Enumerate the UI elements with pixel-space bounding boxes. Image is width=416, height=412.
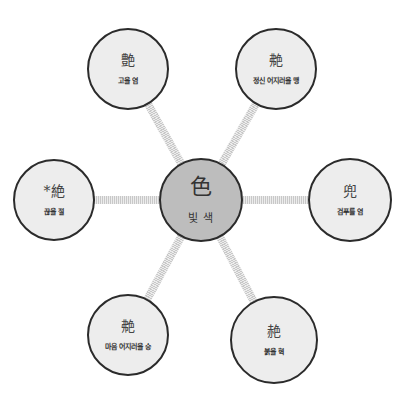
connector-right bbox=[241, 196, 310, 204]
node-bottom-left: 艴 마음 어지러울 승 bbox=[87, 294, 169, 376]
node-hanja: 艴 bbox=[269, 53, 283, 68]
center-node: 色 빛 색 bbox=[159, 158, 243, 242]
connector-top-right bbox=[217, 101, 260, 167]
node-meaning: 정신 어지러울 맹 bbox=[253, 75, 300, 85]
node-right: 兜 검푸를 염 bbox=[308, 158, 392, 242]
connector-left bbox=[93, 196, 161, 204]
connector-top-left bbox=[143, 101, 185, 167]
node-hanja: 艶 bbox=[121, 53, 135, 68]
node-hanja: *絶 bbox=[44, 184, 65, 199]
node-meaning: 검푸를 염 bbox=[337, 206, 363, 216]
node-meaning: 끊을 절 bbox=[44, 206, 64, 216]
node-hanja: 赩 bbox=[267, 324, 281, 339]
node-meaning: 붉을 혁 bbox=[264, 346, 284, 356]
node-bottom-right: 赩 붉을 혁 bbox=[230, 296, 318, 384]
node-hanja: 兜 bbox=[343, 184, 357, 199]
connector-bottom-right bbox=[216, 234, 258, 305]
node-top-left: 艶 고울 염 bbox=[87, 28, 169, 110]
node-hanja: 艴 bbox=[121, 319, 135, 334]
node-top-right: 艴 정신 어지러울 맹 bbox=[235, 28, 317, 110]
node-left: *絶 끊을 절 bbox=[13, 159, 95, 241]
node-meaning: 마음 어지러울 승 bbox=[105, 341, 152, 351]
hanja-radial-diagram: 色 빛 색 艶 고울 염 艴 정신 어지러울 맹 *絶 끊을 절 兜 검푸를 염… bbox=[0, 0, 416, 412]
center-meaning: 빛 색 bbox=[188, 209, 215, 225]
center-hanja: 色 bbox=[190, 175, 212, 199]
node-meaning: 고울 염 bbox=[118, 75, 138, 85]
connector-bottom-left bbox=[143, 233, 185, 302]
